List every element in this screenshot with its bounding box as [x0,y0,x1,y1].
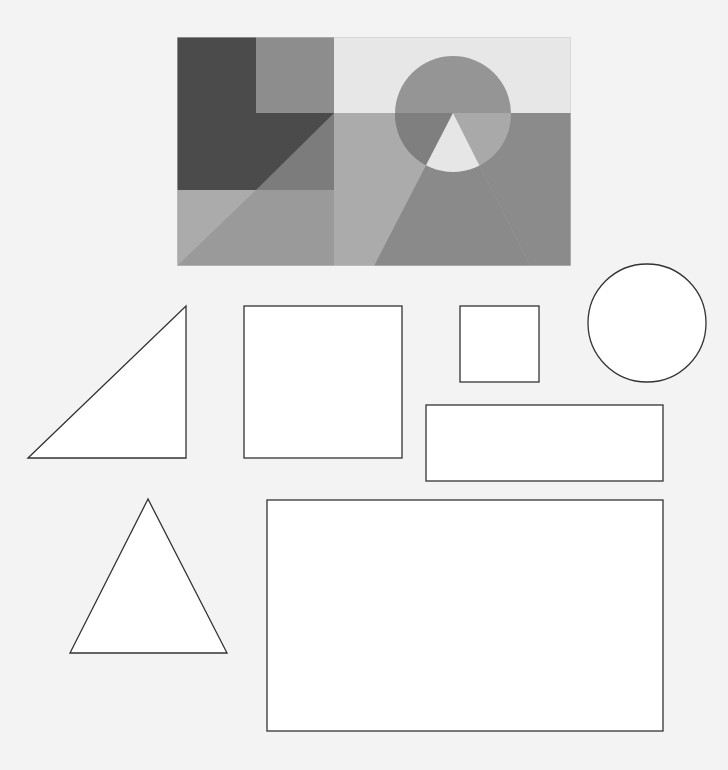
large-square-shape[interactable] [244,306,402,458]
composite-top-mid-block [256,37,334,113]
large-rectangle-shape[interactable] [267,500,663,731]
circle-shape[interactable] [588,264,706,382]
outline-shapes [28,264,706,731]
isosceles-triangle-shape[interactable] [70,499,227,653]
wide-rectangle-shape[interactable] [426,405,663,481]
shapes-canvas [0,0,728,770]
right-triangle-shape[interactable] [28,306,186,458]
small-square-shape[interactable] [460,306,539,382]
composite-reference-image [177,37,571,266]
